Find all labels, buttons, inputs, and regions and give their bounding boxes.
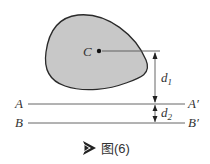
caption-text: 图(6) (101, 141, 130, 156)
figure-diagram: C A A′ B B′ d1 d2 图(6) (0, 0, 210, 164)
d1-arrow-down-icon (153, 96, 158, 103)
axis-b-right-label: B′ (188, 115, 199, 130)
d2-arrow-down-icon (153, 116, 158, 122)
d2-sub: 2 (168, 112, 173, 122)
caption: 图(6) (83, 141, 130, 156)
d2-label: d2 (161, 105, 173, 122)
d1-sub: 1 (168, 77, 173, 87)
play-arrow-icon (83, 141, 96, 155)
axis-a-right-label: A′ (187, 96, 199, 111)
centroid-label: C (83, 44, 92, 59)
axis-b-left-label: B (15, 115, 23, 130)
d2-arrow-up-icon (153, 105, 158, 111)
cross-section-shape (45, 15, 147, 90)
d1-label: d1 (161, 70, 172, 87)
axis-a-left-label: A (14, 96, 23, 111)
d1-arrow-up-icon (153, 52, 158, 59)
centroid-dot (97, 49, 101, 53)
